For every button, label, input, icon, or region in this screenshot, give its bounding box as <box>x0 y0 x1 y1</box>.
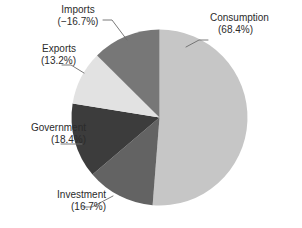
pie-slices <box>71 30 247 206</box>
pie-label-exports: Exports (13.2%) <box>4 43 76 66</box>
pie-label-investment: Investment (16.7%) <box>22 189 106 212</box>
pie-label-exports-value: (13.2%) <box>4 55 76 67</box>
pie-label-imports-value: (−16.7%) <box>36 16 120 28</box>
figure-caption-clipped <box>0 220 302 228</box>
pie-label-consumption: Consumption (68.4%) <box>210 12 269 35</box>
pie-label-consumption-value: (68.4%) <box>210 24 269 36</box>
pie-label-investment-name: Investment <box>22 189 106 201</box>
pie-chart-figure: Consumption (68.4%) Imports (−16.7%) Exp… <box>0 0 302 228</box>
pie-label-imports: Imports (−16.7%) <box>36 4 120 27</box>
pie-label-government-value: (18.4%) <box>2 134 86 146</box>
pie-label-government-name: Government <box>2 122 86 134</box>
pie-label-exports-name: Exports <box>4 43 76 55</box>
leader-line-exports <box>62 65 84 73</box>
pie-label-imports-name: Imports <box>36 4 120 16</box>
pie-label-consumption-name: Consumption <box>210 12 269 24</box>
pie-slice-consumption[interactable] <box>153 30 248 206</box>
pie-label-government: Government (18.4%) <box>2 122 86 145</box>
pie-label-investment-value: (16.7%) <box>22 201 106 213</box>
